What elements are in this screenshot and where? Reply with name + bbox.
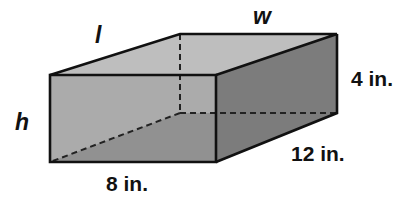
- width-label: w: [253, 5, 271, 28]
- right-bottom-dimension: 12 in.: [291, 143, 345, 164]
- prism-diagram: [0, 0, 415, 204]
- length-label: l: [95, 24, 101, 47]
- front-bottom-dimension: 8 in.: [106, 173, 148, 194]
- height-label: h: [15, 111, 29, 134]
- right-height-dimension: 4 in.: [351, 68, 393, 89]
